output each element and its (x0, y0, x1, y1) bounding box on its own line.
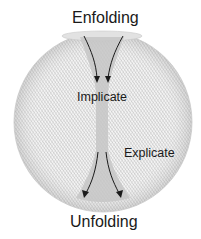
label-explicate: Explicate (124, 147, 175, 160)
label-implicate: Implicate (77, 91, 127, 104)
label-enfolding: Enfolding (72, 10, 139, 26)
label-unfolding: Unfolding (70, 214, 138, 230)
torus-diagram (0, 0, 201, 239)
